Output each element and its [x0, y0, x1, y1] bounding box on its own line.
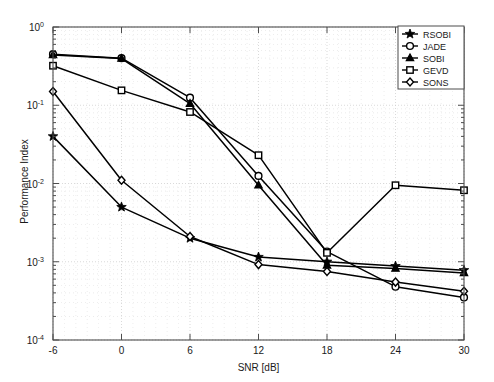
marker-square	[255, 152, 261, 158]
x-tick-label: 24	[390, 345, 402, 356]
marker-square	[187, 109, 193, 115]
legend-label: JADE	[423, 42, 446, 52]
legend-label: GEVD	[423, 66, 449, 76]
y-tick-exponent: -1	[38, 99, 44, 106]
y-tick-exponent: -3	[38, 256, 44, 263]
x-tick-label: 0	[119, 345, 125, 356]
legend-label: SONS	[423, 78, 449, 88]
y-tick-label: 100	[29, 21, 44, 33]
x-tick-label: 12	[253, 345, 265, 356]
marker-square	[118, 87, 124, 93]
marker-square	[392, 182, 398, 188]
y-tick-label: 10-4	[27, 334, 44, 346]
legend: RSOBIJADESOBIGEVDSONS	[398, 26, 464, 89]
y-axis-label: Performance Index	[19, 131, 30, 231]
legend-label: SOBI	[423, 54, 445, 64]
legend-label: RSOBI	[423, 30, 451, 40]
x-tick-label: -6	[49, 345, 58, 356]
y-tick-label: 10-1	[27, 99, 44, 111]
y-tick-exponent: -4	[38, 334, 44, 341]
x-tick-label: 18	[321, 345, 333, 356]
x-tick-label: 30	[458, 345, 470, 356]
marker-square	[324, 250, 330, 256]
marker-circle	[407, 43, 414, 50]
marker-circle	[255, 173, 262, 180]
y-tick-exponent: -2	[38, 178, 44, 185]
x-axis-label: SNR [dB]	[238, 362, 280, 373]
marker-square	[407, 67, 413, 73]
y-tick-exponent: 0	[40, 21, 44, 28]
figure-canvas: 10010-110-210-310-4-60612182430SNR [dB]R…	[0, 0, 494, 382]
x-tick-label: 6	[187, 345, 193, 356]
y-tick-label: 10-3	[27, 256, 44, 268]
performance-index-chart: 10010-110-210-310-4-60612182430SNR [dB]R…	[0, 0, 494, 382]
